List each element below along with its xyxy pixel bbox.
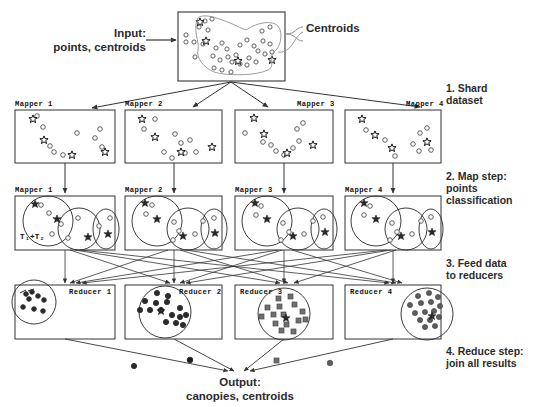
- reducer-label-4: Reducer 4: [350, 288, 392, 296]
- transit-marker: [274, 358, 279, 363]
- map-label-4: Mapper 4: [345, 186, 383, 194]
- map-label-3: Mapper 3: [235, 186, 273, 194]
- step-1-line1: 1. Shard: [446, 82, 487, 94]
- output-label-line1: Output:: [175, 376, 305, 389]
- reducer-label-2: Reducer 2: [179, 288, 221, 296]
- shard-label-1: Mapper 1: [15, 100, 53, 108]
- threshold-annotation: T₁+T₂: [20, 233, 45, 242]
- input-label-line2: points, centroids: [10, 41, 146, 54]
- step-3-line2: to reducers: [446, 269, 503, 281]
- transit-marker: [187, 357, 193, 363]
- transit-marker: [327, 360, 333, 366]
- step-2-line3: classification: [446, 194, 513, 206]
- input-label-line1: Input:: [28, 27, 146, 40]
- output-label-line2: canopies, centroids: [160, 390, 320, 403]
- reducer-label-3: Reducer 3: [240, 288, 282, 296]
- step-3-line1: 3. Feed data: [446, 257, 507, 269]
- shuffle-edges: [65, 250, 402, 283]
- map-label-1: Mapper 1: [15, 186, 53, 194]
- centroids-label: Centroids: [306, 22, 360, 35]
- output-fanin: [65, 339, 393, 371]
- map-label-2: Mapper 2: [125, 186, 163, 194]
- shard-label-4: Mapper 4: [406, 100, 444, 108]
- diagram-canvas: Input: points, centroids Centroids 1. Sh…: [0, 0, 537, 407]
- step-4-line1: 4. Reduce step:: [446, 345, 524, 357]
- step-1-line2: dataset: [446, 94, 483, 106]
- transit-marker: [131, 363, 136, 368]
- shard-label-3: Mapper 3: [297, 100, 335, 108]
- step-2-line1: 2. Map step:: [446, 170, 507, 182]
- reducer-label-1: Reducer 1: [69, 288, 111, 296]
- shard-label-2: Mapper 2: [125, 100, 163, 108]
- step-2-line2: points: [446, 182, 478, 194]
- step-4-line2: join all results: [446, 357, 517, 369]
